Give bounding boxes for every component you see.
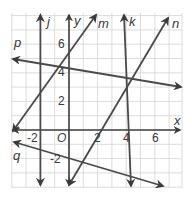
x-axis-label: x [173, 113, 181, 128]
label-n: n [172, 16, 179, 31]
x-tick-4: 4 [123, 131, 130, 145]
label-m: m [98, 16, 109, 31]
x-tick-6: 6 [152, 131, 159, 145]
x-tick-2: 2 [94, 131, 101, 145]
y-tick-6: 6 [58, 37, 65, 51]
label-k: k [129, 14, 137, 29]
x-tick-neg2: -2 [27, 131, 38, 145]
y-tick-neg2: -2 [50, 152, 61, 166]
label-q: q [13, 148, 21, 163]
line-k [124, 15, 131, 186]
label-j: j [45, 14, 51, 29]
coordinate-plane: -2 2 4 6 6 4 2 -2 O x y j k m n p q [0, 0, 192, 201]
y-tick-4: 4 [58, 65, 65, 79]
y-tick-2: 2 [58, 94, 65, 108]
label-p: p [13, 35, 21, 50]
origin-label: O [57, 131, 66, 145]
